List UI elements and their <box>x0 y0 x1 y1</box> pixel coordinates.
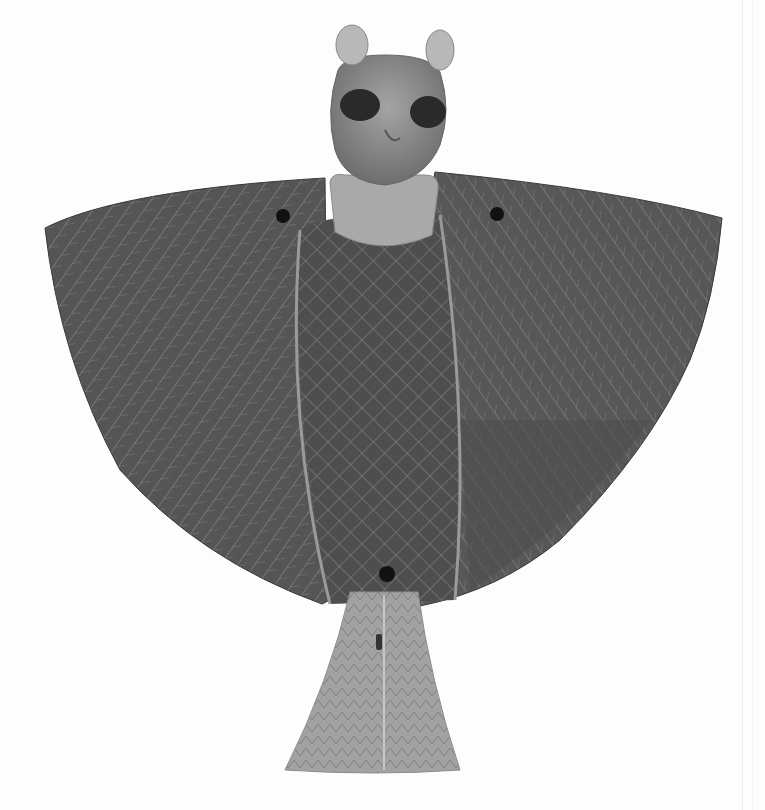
tail <box>285 592 460 773</box>
hole-bottom <box>379 566 395 582</box>
hole-right <box>490 207 504 221</box>
right-wing <box>420 172 722 606</box>
photo-background <box>0 0 765 810</box>
left-ear <box>336 25 368 65</box>
right-ear <box>426 30 454 70</box>
hole-left <box>276 209 290 223</box>
left-wing <box>45 178 330 604</box>
right-eye <box>410 96 446 128</box>
body-panel <box>298 214 460 604</box>
artifact-figure <box>0 0 765 810</box>
wing-panel <box>460 420 650 590</box>
left-eye <box>340 89 380 121</box>
tail-rivet <box>376 634 382 650</box>
